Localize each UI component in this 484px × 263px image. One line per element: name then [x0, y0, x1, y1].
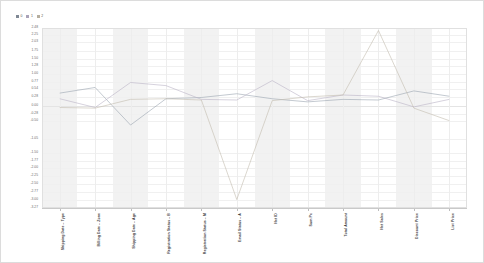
- y-axis-tick-label: -2.25: [30, 174, 38, 178]
- x-axis-tick-label: Discount Price: [415, 213, 419, 239]
- x-axis-tick-mark: [166, 209, 167, 211]
- y-axis-tick-label: 2.25: [32, 33, 38, 37]
- y-axis-tick-label: -1.77: [30, 159, 38, 163]
- x-axis-tick-mark: [131, 209, 132, 211]
- x-axis-tick-label: Registration Status – B: [167, 213, 171, 254]
- y-axis-tick-label: 1.28: [32, 64, 38, 68]
- x-axis-tick-mark: [95, 209, 96, 211]
- legend-swatch-icon: [37, 15, 40, 18]
- x-axis-tick-mark: [378, 209, 379, 211]
- x-axis-tick-mark: [308, 209, 309, 211]
- y-axis-tick-label: 0.00: [32, 104, 38, 108]
- legend-item-0[interactable]: 0: [16, 14, 22, 18]
- x-axis-tick-label: Total Amount: [344, 213, 348, 236]
- y-axis-tick-label: -2.00: [30, 166, 38, 170]
- y-axis-tick-label: 0.77: [32, 80, 38, 84]
- y-axis-tick-label: 2.48: [32, 26, 38, 30]
- x-axis-tick-label: Net ID: [274, 213, 278, 224]
- x-axis-tick-mark: [60, 209, 61, 211]
- y-axis-tick-label: 1.75: [32, 49, 38, 53]
- series-line-1: [60, 81, 450, 108]
- x-axis-tick-mark: [343, 209, 344, 211]
- y-axis-tick-label: -3.00: [30, 198, 38, 202]
- x-axis-tick-mark: [201, 209, 202, 211]
- legend-swatch-icon: [16, 15, 19, 18]
- x-axis-tick-label: Shipping Date – Age: [132, 213, 136, 249]
- x-axis-tick-label: Shipping Date – Type: [61, 213, 65, 250]
- legend-label: 0: [21, 14, 23, 18]
- chart-container: 012 2.482.252.031.751.501.281.000.770.54…: [0, 0, 484, 263]
- x-axis-tick-mark: [237, 209, 238, 211]
- y-axis-tick-label: -3.27: [30, 206, 38, 210]
- y-axis-tick-label: -2.77: [30, 191, 38, 195]
- series-lines: [42, 28, 467, 208]
- legend-swatch-icon: [26, 15, 29, 18]
- x-axis-tick-label: Email Status – A: [238, 213, 242, 242]
- x-axis-tick-mark: [414, 209, 415, 211]
- x-axis-tick-label: Sum Pc: [309, 213, 313, 226]
- y-axis-tick-label: 1.50: [32, 57, 38, 61]
- x-axis-tick-label: Billing Date – Zone: [97, 213, 101, 246]
- y-axis-tick-label: -1.05: [30, 137, 38, 141]
- y-axis-tick-label: -0.28: [30, 113, 38, 117]
- x-axis-tick-label: Net Sales: [380, 213, 384, 230]
- y-axis: 2.482.252.031.751.501.281.000.770.540.28…: [1, 28, 40, 208]
- series-line-2: [60, 31, 450, 200]
- legend-item-1[interactable]: 1: [26, 14, 32, 18]
- y-axis-tick-label: 2.03: [32, 40, 38, 44]
- series-line-0: [60, 87, 450, 125]
- y-axis-tick-label: -1.50: [30, 151, 38, 155]
- y-axis-tick-label: 0.54: [32, 87, 38, 91]
- x-axis-tick-mark: [449, 209, 450, 211]
- x-axis: Shipping Date – TypeBilling Date – ZoneS…: [42, 209, 467, 261]
- legend-label: 1: [31, 14, 33, 18]
- chart-legend: 012: [16, 12, 43, 20]
- x-axis-tick-label: List Price: [451, 213, 455, 230]
- plot-area: [42, 28, 467, 208]
- x-axis-tick-mark: [272, 209, 273, 211]
- legend-item-2[interactable]: 2: [37, 14, 43, 18]
- y-axis-tick-label: 0.28: [32, 95, 38, 99]
- y-axis-tick-label: -0.50: [30, 119, 38, 123]
- y-axis-tick-label: -2.50: [30, 182, 38, 186]
- legend-label: 2: [41, 14, 43, 18]
- x-axis-tick-label: Registration Status – M: [203, 213, 207, 254]
- y-axis-tick-label: 1.00: [32, 73, 38, 77]
